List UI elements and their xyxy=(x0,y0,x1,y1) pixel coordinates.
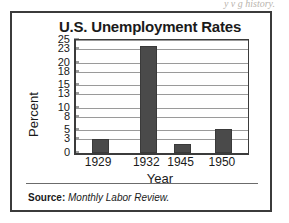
y-axis-tick-label: 15 xyxy=(58,79,70,90)
bar xyxy=(140,46,157,153)
x-axis-tick-label: 1950 xyxy=(209,155,236,169)
bar-series xyxy=(76,40,248,153)
clipped-page-text: y v g history. xyxy=(0,0,289,10)
y-axis-tick-label: 20 xyxy=(58,56,70,67)
source-label: Source: xyxy=(28,192,65,203)
y-axis-ticks: 035810131518202325 xyxy=(12,39,74,152)
y-axis-tick-label: 5 xyxy=(64,124,70,135)
plot-area-wrapper: Percent 035810131518202325 1929193219451… xyxy=(12,13,270,210)
plot-area xyxy=(74,39,249,155)
x-axis-tick-label: 1945 xyxy=(167,155,194,169)
source-divider xyxy=(26,183,258,184)
y-axis-tick-label: 10 xyxy=(58,101,70,112)
chart-figure: U.S. Unemployment Rates Percent 03581013… xyxy=(10,11,272,212)
y-axis-tick-label: 25 xyxy=(58,34,70,45)
bar xyxy=(215,129,232,153)
y-axis-tick-label: 0 xyxy=(64,147,70,158)
source-note: Source: Monthly Labor Review. xyxy=(28,192,169,203)
x-axis-ticks: 1929193219451950 xyxy=(74,155,246,171)
x-axis-tick-label: 1932 xyxy=(133,155,160,169)
bar xyxy=(92,139,109,153)
x-axis-tick-label: 1929 xyxy=(85,155,112,169)
bar xyxy=(174,144,191,153)
source-value: Monthly Labor Review. xyxy=(68,192,169,203)
